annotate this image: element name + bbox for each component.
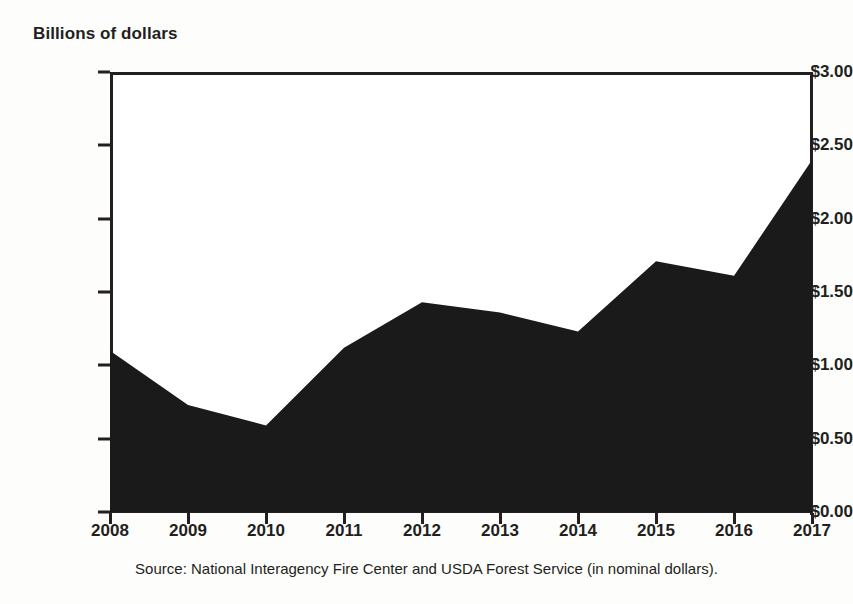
y-tick-label-5: $2.50 [761, 135, 853, 155]
y-tick-mark-3 [98, 291, 110, 294]
y-axis-unit-title: Billions of dollars [33, 24, 178, 44]
x-tick-mark-2008 [109, 513, 112, 524]
x-tick-mark-2012 [421, 513, 424, 524]
y-tick-mark-4 [98, 217, 110, 220]
area-fill-polygon [110, 160, 812, 512]
x-tick-mark-2009 [187, 513, 190, 524]
x-tick-label-2010: 2010 [226, 521, 306, 541]
x-tick-label-2014: 2014 [538, 521, 618, 541]
x-tick-mark-2014 [577, 513, 580, 524]
y-tick-label-0: $0.00 [761, 502, 853, 522]
y-tick-mark-2 [98, 364, 110, 367]
x-tick-mark-2017 [811, 513, 814, 524]
y-tick-label-1: $0.50 [761, 429, 853, 449]
x-tick-mark-2013 [499, 513, 502, 524]
x-tick-label-2009: 2009 [148, 521, 228, 541]
y-tick-label-6: $3.00 [761, 62, 853, 82]
chart-page: Billions of dollars $0.00$0.50$1.00$1.50… [0, 0, 853, 604]
y-tick-label-2: $1.00 [761, 355, 853, 375]
y-tick-mark-5 [98, 144, 110, 147]
y-tick-label-4: $2.00 [761, 209, 853, 229]
y-tick-label-3: $1.50 [761, 282, 853, 302]
x-tick-label-2017: 2017 [772, 521, 852, 541]
y-tick-mark-6 [98, 71, 110, 74]
x-tick-mark-2015 [655, 513, 658, 524]
x-tick-label-2013: 2013 [460, 521, 540, 541]
x-tick-label-2015: 2015 [616, 521, 696, 541]
x-tick-label-2011: 2011 [304, 521, 384, 541]
x-tick-label-2016: 2016 [694, 521, 774, 541]
x-tick-mark-2010 [265, 513, 268, 524]
y-tick-mark-1 [98, 437, 110, 440]
x-tick-label-2008: 2008 [70, 521, 150, 541]
x-tick-label-2012: 2012 [382, 521, 462, 541]
area-series-wildfire-spending [110, 72, 812, 512]
source-note: Source: National Interagency Fire Center… [0, 560, 853, 577]
x-tick-mark-2011 [343, 513, 346, 524]
x-tick-mark-2016 [733, 513, 736, 524]
